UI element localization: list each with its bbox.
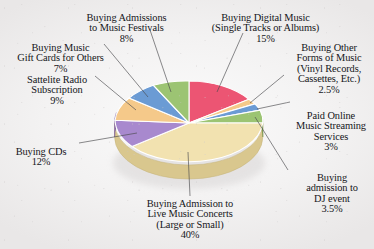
label-digital-music-text: Buying Digital Music (Single Tracks or A… bbox=[212, 12, 319, 34]
label-cds-pct: 12% bbox=[3, 157, 79, 168]
label-live-concerts-text: Buying Admission to Live Music Concerts … bbox=[147, 198, 233, 230]
label-satellite-radio: Sattelite Radio Subscription 9% bbox=[8, 64, 106, 117]
label-streaming: Paid Online Music Streaming Services 3% bbox=[288, 100, 374, 164]
label-live-concerts-pct: 40% bbox=[127, 230, 253, 241]
label-other-forms: Buying Other Forms of Music (Vinyl Recor… bbox=[285, 32, 373, 106]
label-satellite-radio-text: Sattelite Radio Subscription bbox=[27, 74, 87, 96]
label-gift-cards-text: Buying Music Gift Cards for Others bbox=[17, 42, 104, 64]
label-dj-event-text: Buying admission to DJ event bbox=[306, 172, 358, 204]
label-cds: Buying CDs 12% bbox=[3, 136, 79, 178]
label-dj-event-pct: 3.5% bbox=[292, 204, 372, 215]
label-live-concerts: Buying Admission to Live Music Concerts … bbox=[127, 188, 253, 249]
pie-chart-figure: Buying Admissions to Music Festivals 8% … bbox=[0, 0, 374, 249]
label-cds-text: Buying CDs bbox=[16, 146, 67, 157]
label-other-forms-text: Buying Other Forms of Music (Vinyl Recor… bbox=[297, 42, 362, 85]
label-streaming-text: Paid Online Music Streaming Services bbox=[296, 110, 366, 142]
label-dj-event: Buying admission to DJ event 3.5% bbox=[292, 162, 372, 226]
leader-line-otherforms bbox=[250, 75, 284, 103]
label-other-forms-pct: 2.5% bbox=[285, 85, 373, 96]
pie-top-face bbox=[115, 81, 263, 162]
label-satellite-radio-pct: 9% bbox=[8, 96, 106, 107]
label-music-festivals-text: Buying Admissions to Music Festivals bbox=[87, 12, 167, 34]
label-streaming-pct: 3% bbox=[288, 142, 374, 153]
